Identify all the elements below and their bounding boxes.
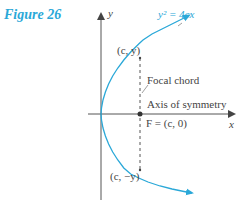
upper-chord-point (139, 57, 141, 59)
equation-label: y² = 4cx (157, 8, 194, 20)
focus-point (138, 112, 143, 117)
x-axis-label: x (228, 118, 234, 130)
y-axis-label: y (107, 7, 113, 19)
equation-leader (178, 23, 182, 26)
focal-chord-leader (142, 85, 148, 93)
focus-label: F = (c, 0) (146, 117, 187, 130)
focal-chord-label: Focal chord (147, 74, 200, 86)
parabola-diagram: y x y² = 4cx (c, y) Focal chord Axis of … (0, 0, 247, 208)
lower-point-label: (c, −y) (110, 170, 140, 183)
upper-point-label: (c, y) (117, 44, 141, 57)
axis-of-symmetry-label: Axis of symmetry (147, 98, 227, 110)
